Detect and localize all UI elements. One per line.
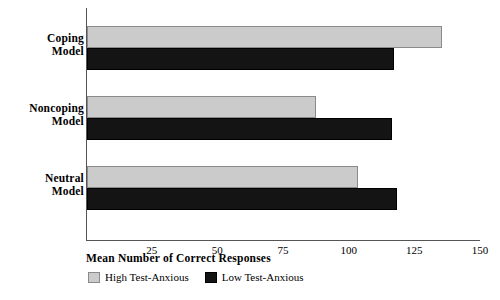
- category-label-coping-model: Coping Model: [0, 32, 84, 58]
- x-tick-label: 100: [329, 244, 369, 256]
- x-axis-title: Mean Number of Correct Responses: [86, 252, 271, 264]
- legend-item-high-test-anxious: High Test-Anxious: [88, 271, 189, 283]
- x-tick-label: 125: [394, 244, 434, 256]
- bar: [87, 26, 442, 48]
- category-label-line1: Coping: [0, 32, 84, 45]
- category-label-line2: Model: [0, 185, 84, 198]
- category-label-line1: Neutral: [0, 172, 84, 185]
- bar-chart: Coping Model Noncoping Model Neutral Mod…: [0, 0, 500, 300]
- x-tick-label: 150: [460, 244, 500, 256]
- category-label-noncoping-model: Noncoping Model: [0, 102, 84, 128]
- bar: [87, 188, 397, 210]
- bar: [87, 96, 316, 118]
- category-label-neutral-model: Neutral Model: [0, 172, 84, 198]
- legend-item-low-test-anxious: Low Test-Anxious: [205, 271, 304, 283]
- bar: [87, 166, 358, 188]
- category-label-line2: Model: [0, 115, 84, 128]
- bar: [87, 48, 394, 70]
- category-label-line1: Noncoping: [0, 102, 84, 115]
- legend-label: Low Test-Anxious: [222, 271, 304, 283]
- plot-area: 255075100125150: [86, 8, 480, 240]
- legend-label: High Test-Anxious: [105, 271, 189, 283]
- category-label-line2: Model: [0, 45, 84, 58]
- chart-legend: High Test-Anxious Low Test-Anxious: [88, 271, 314, 283]
- bar: [87, 118, 392, 140]
- x-axis-line: [86, 240, 480, 241]
- high-anxious-swatch-icon: [88, 272, 100, 283]
- low-anxious-swatch-icon: [205, 272, 217, 283]
